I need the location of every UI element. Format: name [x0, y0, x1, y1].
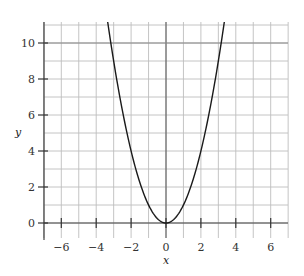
- y-tick-label: 2: [28, 181, 35, 194]
- y-tick-label: 8: [28, 73, 35, 86]
- axes: [38, 22, 288, 240]
- x-tick-label: 4: [232, 241, 239, 254]
- x-tick-label: 0: [163, 241, 170, 254]
- x-tick-label: 2: [197, 241, 204, 254]
- x-tick-label: 6: [267, 241, 274, 254]
- y-tick-label: 0: [28, 217, 35, 230]
- x-tick-label: −6: [53, 241, 69, 254]
- y-tick-label: 6: [28, 109, 35, 122]
- x-axis-label: x: [163, 254, 170, 267]
- y-tick-label: 10: [21, 37, 35, 50]
- x-tick-label: −4: [88, 241, 104, 254]
- x-tick-label: −2: [123, 241, 139, 254]
- y-axis-label: y: [14, 126, 22, 139]
- chart: −6−4−202460246810 x y: [0, 0, 304, 276]
- y-tick-label: 4: [28, 145, 35, 158]
